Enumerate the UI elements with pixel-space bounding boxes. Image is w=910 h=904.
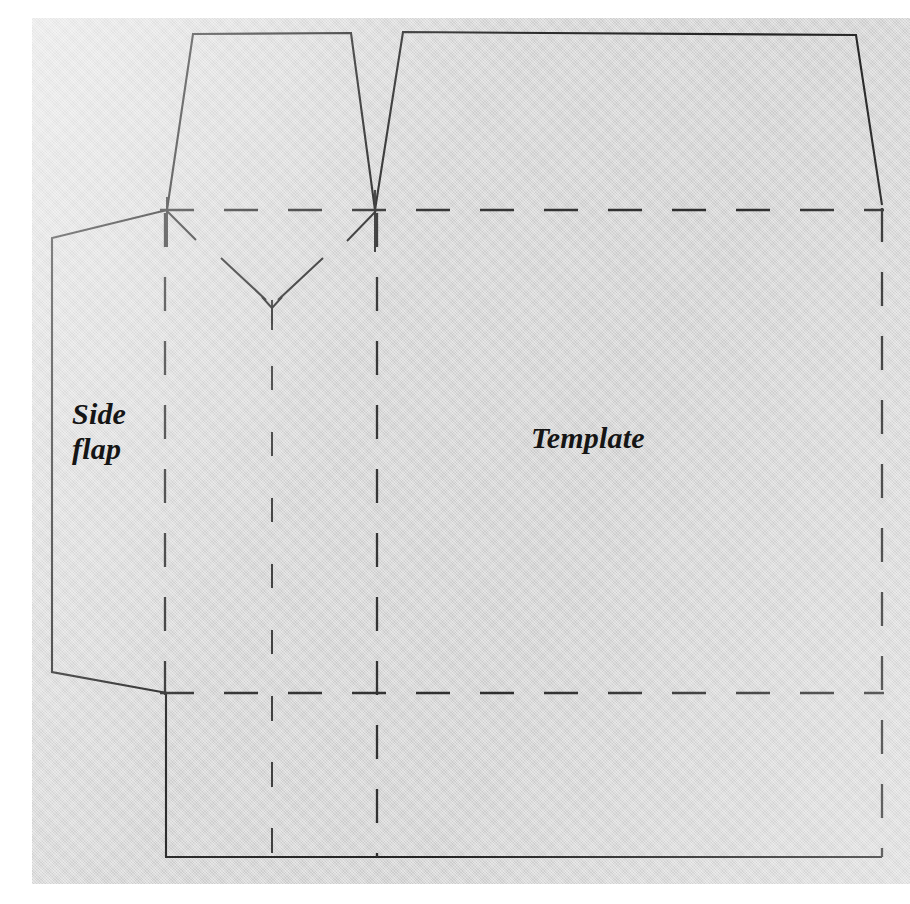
side-flap-label: Side flap (72, 396, 126, 467)
diagram-page: Side flap Template (0, 0, 910, 904)
fold-notch-diagonal-right (278, 258, 323, 300)
template-label: Template (531, 420, 645, 455)
cut-right-vertex-diagonal (347, 211, 376, 241)
cut-right-top-panel (375, 32, 882, 210)
template-drawing (0, 0, 910, 904)
fold-notch-diagonal-left (221, 258, 266, 300)
cut-left-vertex-diagonal (167, 211, 196, 240)
cut-left-top-tab (167, 33, 375, 210)
